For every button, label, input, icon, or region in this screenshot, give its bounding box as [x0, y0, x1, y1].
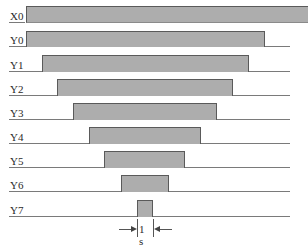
signal-label: Y3: [10, 107, 23, 119]
signal-pulse: [42, 55, 249, 72]
signal-label: Y6: [10, 179, 23, 191]
signal-label: Y0: [10, 34, 23, 46]
signal-label: Y7: [10, 204, 23, 216]
dimension-label: 1 s: [139, 223, 145, 245]
dimension-line-left: [119, 229, 131, 230]
dimension-line-right: [160, 229, 172, 230]
signal-pulse: [26, 6, 308, 23]
dimension-tick-left: [137, 219, 138, 237]
signal-label: Y4: [10, 131, 23, 143]
signal-label: X0: [10, 10, 23, 22]
signal-pulse: [73, 103, 217, 120]
signal-pulse: [57, 79, 233, 96]
signal-label: Y5: [10, 155, 23, 167]
signal-pulse: [121, 175, 169, 192]
signal-pulse: [137, 200, 153, 217]
signal-label: Y1: [10, 59, 23, 71]
signal-pulse: [26, 31, 265, 47]
signal-pulse: [104, 151, 185, 168]
signal-label: Y2: [10, 83, 23, 95]
arrow-right-icon: [131, 226, 137, 232]
signal-baseline: [9, 22, 25, 23]
signal-pulse: [89, 127, 201, 144]
